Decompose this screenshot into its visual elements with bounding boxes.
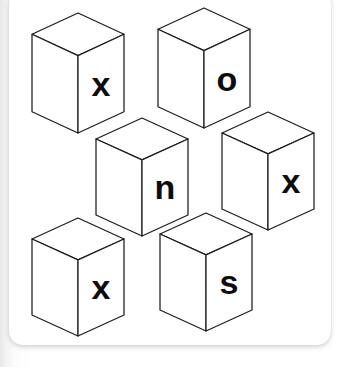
cube-letter-3: n [155,168,176,206]
cube-svg-canvas: xonxxs [0,0,338,367]
scene-root: xonxxs [0,0,338,367]
cube-letter-5: x [92,268,111,306]
cube-illustration-layer: xonxxs [0,0,338,367]
cube-2: o [158,8,250,128]
cube-letter-1: x [92,65,111,103]
cube-1: x [32,13,124,133]
cube-5: x [32,218,124,336]
cube-6: s [160,213,252,331]
cube-3: n [96,118,188,236]
cube-4: x [222,112,314,230]
faint-caption [0,355,338,367]
cube-letter-4: x [282,162,301,200]
cube-letter-2: o [217,60,238,98]
cube-letter-6: s [220,263,239,301]
